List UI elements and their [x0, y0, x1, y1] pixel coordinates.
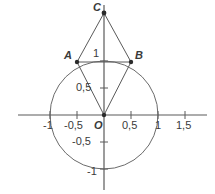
point-c — [102, 11, 107, 16]
y-axis-label-1: 1 — [93, 48, 99, 59]
segment-ob — [104, 62, 131, 115]
figure-canvas — [0, 0, 215, 194]
y-axis-label-0-5: 0,5 — [76, 82, 91, 93]
x-axis-label-1-5: 1,5 — [176, 120, 191, 131]
x-axis-label-1: 1 — [155, 120, 161, 131]
y-axis-label--1: -1 — [87, 166, 97, 177]
x-axis-label-0-5: 0,5 — [122, 120, 137, 131]
origin-label: O — [94, 120, 103, 131]
point-a — [75, 60, 79, 64]
segment-bc — [104, 13, 131, 62]
x-axis-label--0-5: -0,5 — [64, 120, 83, 131]
geometry-figure: A B C -1 -0,5 O 0,5 1 1,5 1 0,5 -0,5 -1 — [0, 0, 215, 194]
point-o — [102, 113, 106, 117]
x-axis-label--1: -1 — [43, 120, 53, 131]
vertex-label-a: A — [64, 50, 72, 61]
vertex-label-b: B — [135, 50, 143, 61]
y-axis-label--0-5: -0,5 — [72, 136, 91, 147]
vertex-label-c: C — [93, 2, 101, 13]
segment-ac — [77, 13, 104, 62]
point-b — [129, 60, 133, 64]
